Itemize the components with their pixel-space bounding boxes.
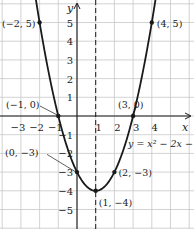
svg-text:(1, −4): (1, −4) <box>99 197 133 208</box>
grid-lines <box>0 0 194 229</box>
svg-text:1: 1 <box>96 122 102 133</box>
svg-text:(−1, 0): (−1, 0) <box>6 99 40 110</box>
svg-text:−1: −1 <box>58 130 73 141</box>
parabola-graph: xy −3−2−1123454321−1−2−3−4−5 (−2, 5)(−1,… <box>0 0 194 229</box>
svg-text:4: 4 <box>67 36 73 47</box>
svg-text:x: x <box>182 121 189 134</box>
svg-text:(3, 0): (3, 0) <box>118 99 144 110</box>
svg-text:(−2, 5): (−2, 5) <box>2 18 36 29</box>
svg-text:3: 3 <box>67 55 73 66</box>
point-2_-3: (2, −3) <box>112 167 152 178</box>
labeled-points: (−2, 5)(−1, 0)(0, −3)(1, −4)(2, −3)(3, 0… <box>2 18 182 208</box>
svg-text:5: 5 <box>67 18 73 29</box>
svg-text:−4: −4 <box>58 186 73 197</box>
svg-text:y: y <box>66 2 74 15</box>
svg-text:3: 3 <box>133 122 139 133</box>
svg-text:(4, 5): (4, 5) <box>157 18 183 29</box>
equation-label: y = x² − 2x − 3 <box>127 138 194 149</box>
point-4_5: (4, 5) <box>150 18 183 29</box>
point--1_0: (−1, 0) <box>6 99 61 118</box>
svg-text:−2: −2 <box>29 122 44 133</box>
svg-text:2: 2 <box>67 74 73 85</box>
point--2_5: (−2, 5) <box>2 18 42 29</box>
svg-text:(2, −3): (2, −3) <box>118 167 152 178</box>
svg-text:1: 1 <box>67 92 73 103</box>
svg-text:−5: −5 <box>58 205 73 216</box>
svg-text:2: 2 <box>114 122 120 133</box>
svg-text:4: 4 <box>152 122 158 133</box>
svg-text:−3: −3 <box>11 122 26 133</box>
point-1_-4: (1, −4) <box>94 189 133 208</box>
point-3_0: (3, 0) <box>118 99 144 118</box>
svg-text:(0, −3): (0, −3) <box>5 147 39 158</box>
